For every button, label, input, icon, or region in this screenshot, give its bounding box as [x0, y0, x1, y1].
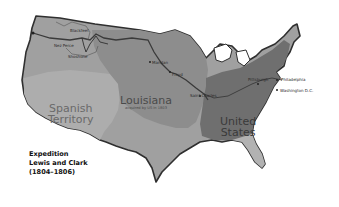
place-label-pittsburgh: Pittsburgh	[248, 77, 268, 82]
spanish-territory-label: Spanish Territory	[48, 103, 94, 125]
spanish-label-line2: Territory	[48, 114, 94, 125]
place-dot-pittsburgh	[257, 83, 259, 85]
caption-line2: Lewis and Clark	[29, 159, 88, 168]
louisiana-label: Louisiana acquired by US in 1803	[120, 95, 172, 111]
louisiana-title: Louisiana	[120, 95, 172, 106]
place-label-saint-charles: Saint Charles	[190, 93, 217, 98]
place-label-blackfeet: Blackfeet	[70, 28, 89, 33]
place-label-floyd: Floyd	[172, 72, 183, 77]
place-label-philadelphia: Philadelphia	[281, 77, 305, 82]
place-label-mandan: Mandan	[152, 60, 168, 65]
place-label-nez-perce: Nez Perce	[54, 43, 74, 48]
united-states-label: United States	[220, 116, 256, 138]
place-dot-pacific	[32, 32, 35, 35]
map-caption: Expedition Lewis and Clark (1804–1806)	[29, 150, 88, 177]
place-dot-washington	[276, 89, 278, 91]
place-label-shoshone: Shoshone	[68, 54, 88, 59]
place-dot-philadelphia	[276, 79, 278, 81]
place-dot-floyd	[169, 71, 171, 73]
place-label-washington: Washington D.C.	[280, 88, 313, 93]
louisiana-subtitle: acquired by US in 1803	[120, 107, 172, 111]
us-label-line2: States	[220, 127, 256, 138]
caption-line1: Expedition	[29, 150, 88, 159]
place-dot-mandan	[149, 61, 151, 63]
caption-line3: (1804–1806)	[29, 168, 88, 177]
